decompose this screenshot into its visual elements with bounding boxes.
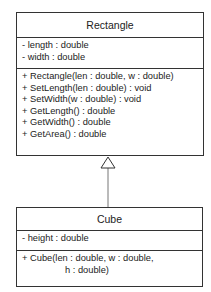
attribute: - height : double (22, 233, 202, 245)
hollow-triangle-arrow-icon (101, 157, 115, 168)
operations-section: + Cube(len : double, w : double, h : dou… (17, 251, 202, 276)
operation: + Cube(len : double, w : double, (22, 253, 202, 265)
class-cube: Cube - height : double + Cube(len : doub… (16, 207, 203, 287)
class-name: Cube (17, 208, 202, 231)
operation-continuation: h : double) (22, 265, 202, 277)
attributes-section: - height : double (17, 231, 202, 251)
